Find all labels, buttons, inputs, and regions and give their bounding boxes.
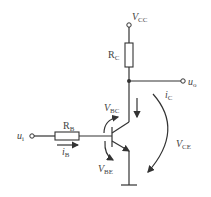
rc-resistor: [125, 43, 133, 67]
ic-label: iC: [165, 90, 172, 102]
circuit-diagram: VCC RC uo iC VBC RB ui iB VCE VBE: [0, 0, 211, 197]
uo-terminal: [181, 79, 185, 83]
vce-label: VCE: [176, 139, 191, 151]
rb-resistor: [55, 132, 79, 140]
ui-label: ui: [17, 131, 24, 143]
transistor-emitter: [112, 141, 129, 151]
uo-label: uo: [188, 77, 197, 89]
ib-label: iB: [62, 147, 69, 159]
vcc-label: VCC: [132, 12, 147, 24]
ui-terminal: [30, 134, 34, 138]
rc-label: RC: [108, 50, 119, 62]
rb-label: RB: [63, 121, 74, 133]
vbe-label: VBE: [98, 164, 113, 176]
vce-arrow: [148, 94, 168, 172]
transistor-collector: [112, 122, 129, 133]
vbc-label: VBC: [104, 103, 119, 115]
vcc-terminal: [127, 23, 131, 27]
